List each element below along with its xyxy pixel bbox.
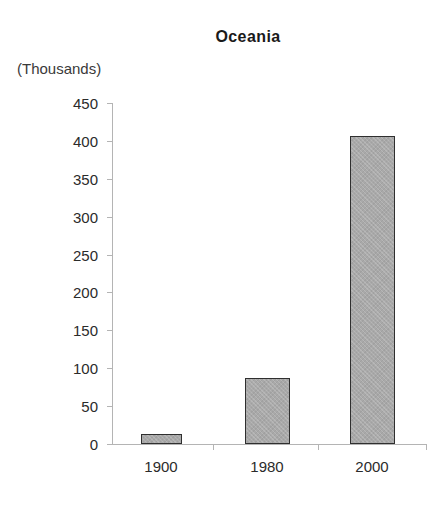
y-tick-label-150: 150 (73, 322, 98, 339)
y-axis-units-label: (Thousands) (17, 60, 101, 77)
y-tick-250: 250 (107, 255, 113, 256)
chart-title: Oceania (0, 28, 442, 46)
y-tick-label-400: 400 (73, 132, 98, 149)
x-axis-line (112, 444, 427, 445)
x-tick-boundary-3 (426, 444, 427, 450)
x-tick-boundary-2 (318, 444, 319, 450)
y-tick-label-350: 350 (73, 170, 98, 187)
y-tick-label-250: 250 (73, 246, 98, 263)
y-tick-label-100: 100 (73, 360, 98, 377)
x-label-2000: 2000 (355, 458, 388, 475)
bar-1900[interactable] (141, 434, 182, 444)
bar-1980[interactable] (245, 378, 290, 444)
y-tick-200: 200 (107, 292, 113, 293)
y-tick-label-450: 450 (73, 95, 98, 112)
x-label-1980: 1980 (250, 458, 283, 475)
bar-chart-figure: Oceania (Thousands) 450 400 350 300 250 … (0, 0, 442, 509)
y-tick-label-50: 50 (81, 398, 98, 415)
y-tick-450: 450 (107, 103, 113, 104)
bar-2000[interactable] (350, 136, 395, 444)
y-tick-400: 400 (107, 141, 113, 142)
y-tick-300: 300 (107, 217, 113, 218)
y-tick-350: 350 (107, 179, 113, 180)
y-tick-label-200: 200 (73, 284, 98, 301)
y-tick-50: 50 (107, 406, 113, 407)
x-label-1900: 1900 (144, 458, 177, 475)
chart-title-text: Oceania (215, 28, 280, 45)
plot-area: 450 400 350 300 250 200 150 100 50 0 (112, 103, 427, 444)
y-tick-100: 100 (107, 368, 113, 369)
y-tick-0: 0 (107, 444, 113, 445)
y-tick-label-300: 300 (73, 208, 98, 225)
y-tick-150: 150 (107, 330, 113, 331)
y-axis-line (112, 103, 113, 444)
x-tick-boundary-1 (213, 444, 214, 450)
y-tick-label-0: 0 (90, 436, 98, 453)
